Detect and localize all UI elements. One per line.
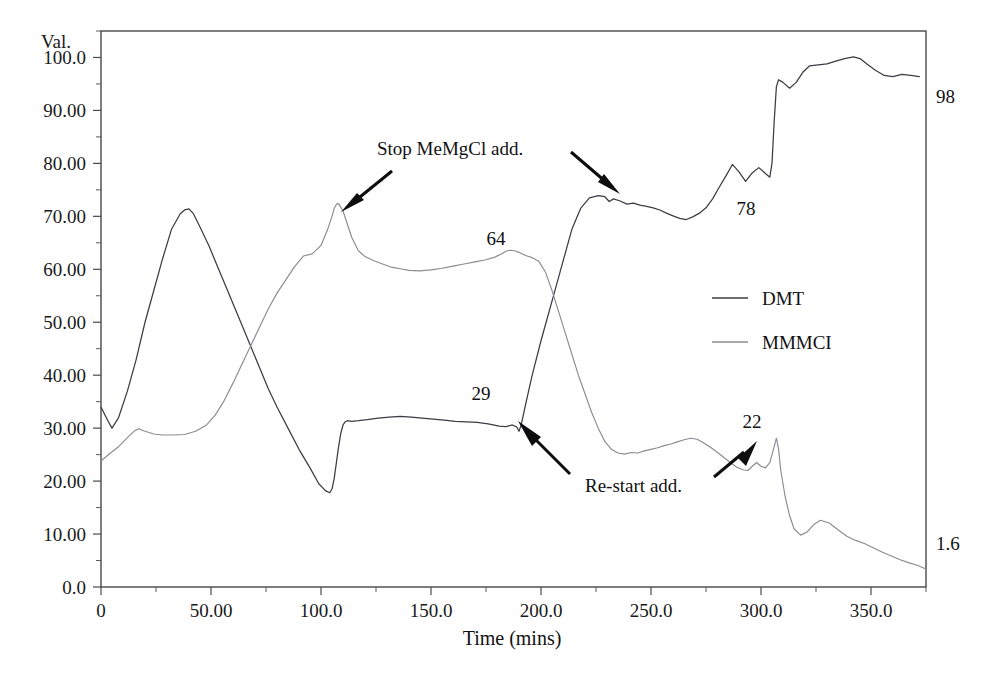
restart-add-arrow-left [518,421,570,474]
y-tick-label: 80.00 [43,153,86,174]
y-tick-label: 60.00 [43,259,86,280]
restart-add-annotation-text: Re-start add. [585,475,682,496]
stop-memgcl-arrow-left [341,171,392,212]
dmt-end-label: 98 [936,86,955,107]
stop-memgcl-annotation-text: Stop MeMgCl add. [377,138,523,159]
y-tick-label: 20.00 [43,471,86,492]
figure-container: 100.090.0080.0070.0060.0050.0040.0030.00… [0,0,993,689]
label-64: 64 [487,228,507,249]
y-tick-label: 90.00 [43,100,86,121]
series-line-mmmci [101,204,926,569]
y-axis-tick-labels: 100.090.0080.0070.0060.0050.0040.0030.00… [43,47,86,598]
legend-label-dmt: DMT [762,288,805,309]
y-tick-label: 70.00 [43,206,86,227]
x-axis-ticks [101,587,926,595]
label-22: 22 [743,411,762,432]
x-tick-label: 50.00 [190,600,233,621]
label-78: 78 [737,198,756,219]
x-axis-tick-labels: 050.00100.0150.0200.0250.0300.0350.0 [96,600,892,621]
series-line-dmt [101,57,919,493]
y-axis-title: Val. [41,31,71,52]
y-tick-label: 50.00 [43,312,86,333]
y-axis-ticks [93,31,101,587]
x-tick-label: 100.0 [300,600,343,621]
x-tick-label: 150.0 [410,600,453,621]
mmmci-end-label: 1.6 [936,533,960,554]
series-paths [101,57,926,569]
restart-add-arrow-right [714,441,757,477]
y-tick-label: 10.00 [43,524,86,545]
plot-frame [101,31,926,587]
x-tick-label: 200.0 [520,600,563,621]
y-tick-label: 30.00 [43,418,86,439]
x-tick-label: 0 [96,600,106,621]
legend-label-mmmci: MMMCI [762,332,832,353]
x-tick-label: 300.0 [740,600,783,621]
legend: DMT MMMCI [712,288,832,353]
y-tick-label: 40.00 [43,365,86,386]
y-tick-label: 0.0 [62,577,86,598]
x-axis-title: Time (mins) [463,627,562,650]
x-tick-label: 350.0 [850,600,893,621]
label-29: 29 [472,383,491,404]
line-chart: 100.090.0080.0070.0060.0050.0040.0030.00… [0,0,993,689]
x-tick-label: 250.0 [630,600,673,621]
stop-memgcl-arrow-right [571,152,620,194]
